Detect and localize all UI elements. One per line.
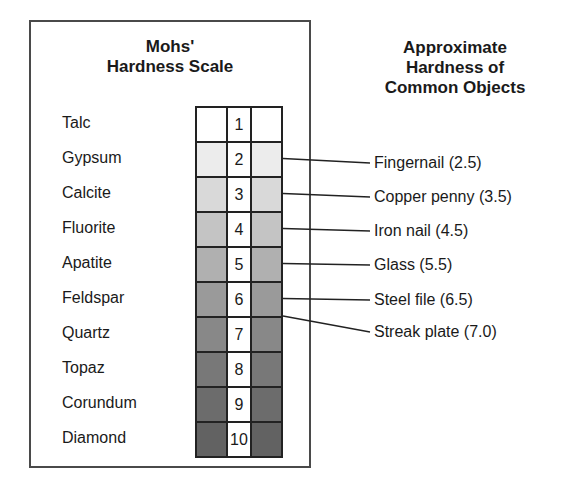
- common-object-label: Copper penny (3.5): [374, 187, 512, 207]
- leader-line: [283, 316, 370, 332]
- leader-lines: [0, 0, 570, 483]
- common-object-label: Fingernail (2.5): [374, 153, 482, 173]
- leader-line: [283, 299, 370, 301]
- common-object-label: Steel file (6.5): [374, 290, 473, 310]
- leader-line: [283, 159, 370, 164]
- common-object-label: Iron nail (4.5): [374, 221, 468, 241]
- common-object-label: Glass (5.5): [374, 255, 452, 275]
- leader-line: [283, 229, 370, 232]
- leader-line: [283, 264, 370, 266]
- leader-line: [283, 194, 370, 198]
- common-object-label: Streak plate (7.0): [374, 322, 497, 342]
